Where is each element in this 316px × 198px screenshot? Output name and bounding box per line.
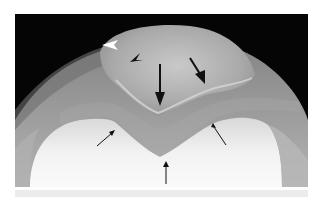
knee-xray-illustration bbox=[15, 14, 308, 187]
radiograph-image bbox=[15, 14, 308, 187]
bottom-margin-strip bbox=[15, 190, 308, 197]
